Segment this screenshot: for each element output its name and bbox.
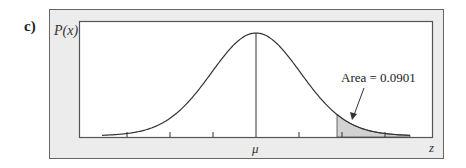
normal-curve-chart: P(x) μ z Area = 0.0901 xyxy=(0,0,466,168)
mean-label: μ xyxy=(251,141,259,156)
x-axis-label: z xyxy=(428,140,434,155)
y-axis-label: P(x) xyxy=(53,23,78,39)
area-annotation: Area = 0.0901 xyxy=(341,70,416,85)
